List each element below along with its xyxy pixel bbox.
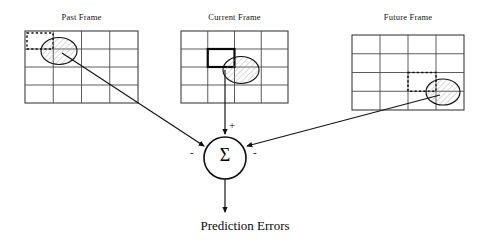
prediction-errors-label: Prediction Errors (145, 218, 345, 234)
minus-sign-right-label: - (253, 147, 257, 158)
current-frame-label: Current Frame (181, 12, 288, 22)
current-frame-hatched-blob (223, 57, 259, 84)
past-frame-label: Past Frame (25, 12, 138, 22)
sigma-symbol: Σ (205, 145, 245, 166)
future-frame-label: Future Frame (352, 12, 464, 22)
diagram-graphics (0, 0, 489, 248)
plus-sign-label: + (229, 120, 235, 131)
past-frame-hatched-blob (41, 38, 77, 65)
minus-sign-left-label: - (190, 147, 194, 158)
future-frame-hatched-blob (426, 79, 460, 105)
diagram-canvas: Past Frame Current Frame Future Frame + … (0, 0, 489, 248)
